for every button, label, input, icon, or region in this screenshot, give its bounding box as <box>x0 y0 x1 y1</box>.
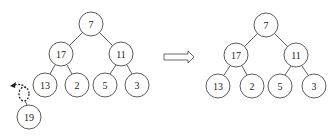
node-3: 3 <box>125 73 149 97</box>
heap-removal-diagram: 7 17 11 13 2 5 3 19 7 17 11 13 2 5 3 <box>0 0 333 140</box>
node-7: 7 <box>254 13 278 37</box>
svg-text:17: 17 <box>231 50 241 61</box>
node-13: 13 <box>206 74 230 98</box>
node-17: 17 <box>49 42 73 66</box>
svg-text:3: 3 <box>135 80 140 91</box>
svg-text:19: 19 <box>24 112 34 123</box>
node-11: 11 <box>109 42 133 66</box>
svg-text:11: 11 <box>291 50 301 61</box>
svg-text:3: 3 <box>312 81 317 92</box>
node-3: 3 <box>302 74 326 98</box>
svg-text:17: 17 <box>56 49 66 60</box>
svg-text:2: 2 <box>250 81 255 92</box>
node-13: 13 <box>33 73 57 97</box>
dashed-placeholder <box>14 84 29 101</box>
svg-text:7: 7 <box>89 19 94 30</box>
svg-text:5: 5 <box>278 81 283 92</box>
left-tree: 7 17 11 13 2 5 3 19 <box>10 12 149 129</box>
right-tree: 7 17 11 13 2 5 3 <box>206 13 326 98</box>
node-5: 5 <box>93 73 117 97</box>
node-5: 5 <box>268 74 292 98</box>
svg-text:7: 7 <box>264 20 269 31</box>
node-2: 2 <box>240 74 264 98</box>
node-11: 11 <box>284 43 308 67</box>
node-7: 7 <box>79 12 103 36</box>
svg-text:5: 5 <box>103 80 108 91</box>
transform-arrow-icon <box>164 51 194 63</box>
node-2: 2 <box>65 73 89 97</box>
svg-text:2: 2 <box>75 80 80 91</box>
svg-text:11: 11 <box>116 49 126 60</box>
svg-text:13: 13 <box>213 81 223 92</box>
arrowhead-icon <box>10 82 16 88</box>
node-17: 17 <box>224 43 248 67</box>
node-19: 19 <box>17 105 41 129</box>
svg-text:13: 13 <box>40 80 50 91</box>
